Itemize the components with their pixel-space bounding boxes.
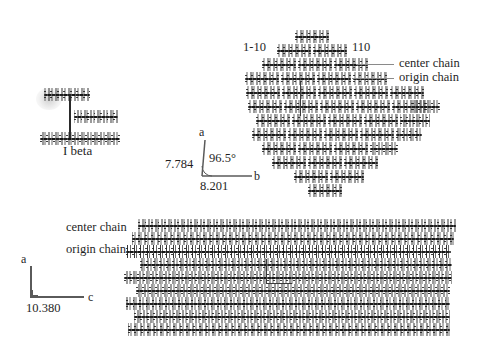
- side-view-origin-chain-label: origin chain: [66, 243, 126, 256]
- unit-cell-axis-b-label: b: [254, 170, 260, 182]
- cross-section-chain: [412, 100, 440, 113]
- side-view-chain-row: [126, 297, 450, 310]
- side-view-chain-row: [136, 284, 450, 297]
- cross-section-chain: [313, 44, 347, 57]
- side-view-axis-c-label: c: [88, 291, 93, 303]
- side-view-chain-row: [138, 219, 456, 232]
- side-view-unit-cell-horizontal: [266, 283, 292, 284]
- figure-canvas: I beta a 7.784 96.5° 8.201 b: [0, 0, 489, 349]
- cross-section-chain: [298, 58, 332, 71]
- unit-cell-angle: 96.5°: [209, 152, 236, 165]
- side-view-axis-a-label: a: [21, 253, 26, 265]
- cross-section-chain: [252, 128, 286, 141]
- cross-section-chain: [294, 170, 328, 183]
- side-view-c-length: 10.380: [26, 302, 60, 315]
- cross-section-chain: [277, 44, 311, 57]
- side-view-center-chain-label: center chain: [66, 221, 127, 234]
- cross-section-chain: [272, 156, 306, 169]
- cross-section-unit-cell-marker: [300, 82, 301, 116]
- cross-section-chain: [400, 114, 430, 127]
- cross-section-center-chain-label: center chain: [399, 57, 460, 70]
- cross-section-chain: [330, 170, 364, 183]
- side-view-chain-row: [134, 310, 450, 323]
- cross-section-chain: [354, 86, 388, 99]
- side-view-chain-row: [132, 232, 454, 245]
- cross-section-chain: [262, 58, 296, 71]
- side-view-chain-row: [126, 245, 451, 258]
- cross-section-chain: [356, 100, 390, 113]
- cross-section-chain: [364, 114, 398, 127]
- side-view-unit-cell-vertical: [266, 259, 267, 284]
- cross-section-chain: [328, 114, 362, 127]
- unit-cell-a-length: 7.784: [165, 158, 193, 171]
- side-view-axis-c-line: [30, 296, 84, 298]
- sketch-chain-middle: [74, 110, 118, 123]
- cross-section-chain: [318, 86, 352, 99]
- cross-section-chain: [245, 72, 279, 85]
- plane-label-1-10: 1-10: [243, 41, 266, 54]
- side-view-right-angle-marker: [32, 290, 38, 296]
- cross-section-origin-chain-label: origin chain: [399, 71, 459, 84]
- cross-section-chain: [248, 100, 282, 113]
- cross-section-chain: [246, 86, 280, 99]
- cross-section-chain: [317, 72, 351, 85]
- cross-section-chain: [256, 114, 290, 127]
- center-chain-leader-line: [356, 64, 394, 65]
- cross-section-chain: [308, 156, 342, 169]
- cross-section-chain: [360, 128, 394, 141]
- plane-label-110: 110: [352, 41, 370, 54]
- i-beta-caption: I beta: [63, 144, 92, 157]
- side-view-chain-row: [140, 258, 452, 271]
- cross-section-chain: [324, 128, 358, 141]
- cross-section-chain: [390, 86, 424, 99]
- side-view-chain-row: [128, 323, 450, 336]
- cross-section-chain: [288, 128, 322, 141]
- unit-cell-b-length: 8.201: [200, 180, 228, 193]
- cross-section-chain: [308, 184, 342, 197]
- cross-section-chain: [320, 100, 354, 113]
- cross-section-chain: [334, 142, 368, 155]
- cross-section-chain: [370, 142, 398, 155]
- cross-section-chain: [344, 156, 378, 169]
- origin-chain-leader-line: [352, 78, 394, 79]
- cross-section-chain: [295, 30, 329, 43]
- sketch-chain-top: [44, 88, 90, 101]
- cross-section-chain: [262, 142, 296, 155]
- cross-section-chain: [396, 128, 422, 141]
- cross-section-chain: [281, 72, 315, 85]
- cross-section-chain: [292, 114, 326, 127]
- cross-section-chain: [282, 86, 316, 99]
- cross-section-chain: [298, 142, 332, 155]
